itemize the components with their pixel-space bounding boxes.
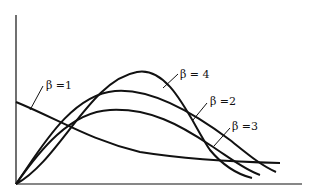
- label-beta-1: β =1: [46, 79, 72, 92]
- curve-beta-3: [16, 110, 260, 184]
- label-beta-2: β =2: [210, 95, 236, 108]
- chart: β =1 β = 4 β =2 β =3: [0, 0, 311, 192]
- label-beta-4: β = 4: [180, 68, 210, 81]
- leader-beta-1: [30, 86, 43, 110]
- leader-beta-2: [193, 103, 207, 120]
- label-beta-3: β =3: [232, 120, 258, 133]
